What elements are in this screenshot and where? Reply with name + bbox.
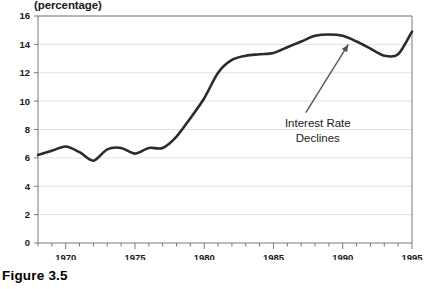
x-tick-label-1980: 1980: [194, 252, 215, 260]
gridlines-group: [38, 16, 412, 215]
y-tick-labels-group: 0246810121416: [19, 10, 30, 248]
line-chart: 0246810121416 197019751980198519901995 I…: [0, 0, 433, 260]
x-tick-label-1995: 1995: [401, 252, 423, 260]
annotation-text-line1: Interest Rate: [285, 117, 351, 129]
y-tick-label-8: 8: [25, 124, 30, 135]
x-tick-label-1990: 1990: [332, 252, 353, 260]
y-tick-label-10: 10: [19, 96, 30, 107]
x-tick-labels-group: 197019751980198519901995: [55, 252, 423, 260]
y-tick-label-14: 14: [19, 39, 30, 50]
y-tick-label-12: 12: [19, 67, 30, 78]
x-tick-label-1970: 1970: [55, 252, 76, 260]
axis-group: [34, 16, 412, 249]
annotation-text-line2: Declines: [296, 132, 340, 144]
annotation-arrow-head: [342, 44, 349, 52]
y-tick-label-16: 16: [19, 10, 30, 21]
y-tick-label-6: 6: [25, 152, 30, 163]
y-tick-label-0: 0: [25, 237, 30, 248]
annotation-group: Interest RateDeclines: [285, 44, 351, 143]
figure-caption: Figure 3.5: [2, 268, 68, 283]
y-tick-label-4: 4: [25, 181, 31, 192]
series-line-interest-rate: [38, 32, 412, 161]
x-tick-label-1975: 1975: [124, 252, 146, 260]
annotation-arrow-shaft: [306, 44, 348, 112]
y-tick-label-2: 2: [25, 209, 30, 220]
data-series-group: [38, 32, 412, 161]
x-tick-label-1985: 1985: [263, 252, 285, 260]
figure-container: (percentage) 0246810121416 1970197519801…: [0, 0, 433, 289]
